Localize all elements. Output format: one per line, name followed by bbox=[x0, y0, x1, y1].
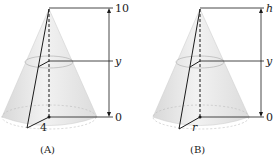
cone-body bbox=[153, 9, 249, 126]
top-label: 10 bbox=[115, 2, 129, 15]
arrowhead-up bbox=[259, 8, 263, 13]
radius-label: 4 bbox=[40, 121, 47, 134]
arrowhead-up bbox=[107, 8, 111, 13]
arrowhead-down bbox=[259, 112, 263, 117]
bottom-label: 0 bbox=[266, 111, 273, 124]
radius-label: r bbox=[192, 121, 198, 134]
mid-label: y bbox=[265, 55, 273, 68]
mid-label: y bbox=[114, 55, 122, 68]
cone-figure-a: 10 y 0 4 (A) bbox=[2, 2, 129, 155]
top-label: h bbox=[266, 2, 273, 15]
figure-caption: (B) bbox=[190, 144, 205, 155]
cone-figure-b: h y 0 r (B) bbox=[153, 2, 273, 155]
bottom-label: 0 bbox=[115, 111, 122, 124]
arrowhead-down bbox=[107, 112, 111, 117]
cones-diagram: 10 y 0 4 (A) h y 0 r (B) bbox=[0, 0, 275, 157]
figure-caption: (A) bbox=[40, 144, 55, 155]
